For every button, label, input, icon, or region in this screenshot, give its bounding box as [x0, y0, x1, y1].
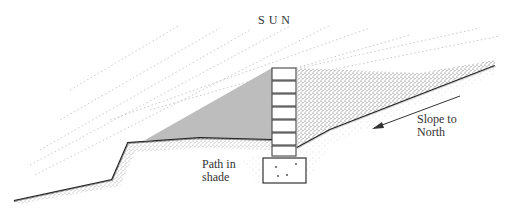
slope-label: Slope to North [417, 113, 477, 139]
sun-label: SUN [258, 14, 294, 27]
slope-label-line2: North [417, 126, 477, 139]
path-label-line2: shade [202, 171, 262, 184]
retaining-wall [272, 68, 296, 156]
footing [263, 158, 306, 183]
path-label: Path in shade [202, 158, 262, 184]
shade-region [145, 68, 272, 140]
